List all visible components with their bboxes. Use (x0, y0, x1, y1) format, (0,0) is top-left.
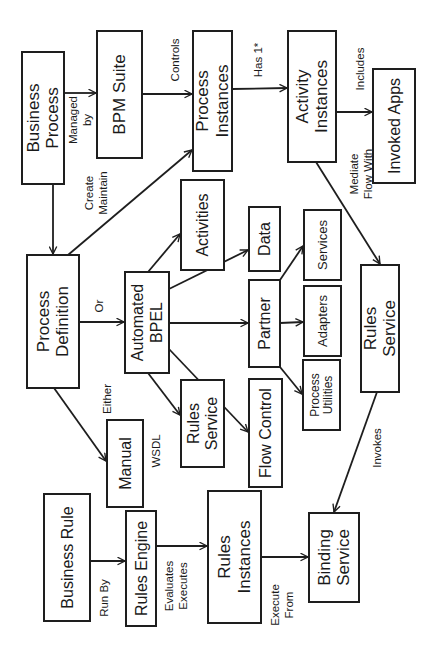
label-invokes: Invokes (371, 428, 383, 468)
node-label: BPEL (148, 302, 165, 343)
node-label: Instances (213, 65, 232, 138)
node-label: Manual (117, 437, 134, 489)
node-label: Flow Control (257, 388, 274, 478)
edge-label-text: From (283, 592, 295, 619)
edge-label-text: Or (93, 299, 105, 312)
edge-label-text: Flow With (362, 149, 374, 199)
node-label: Data (256, 222, 273, 256)
edge-label-text: Create (83, 176, 95, 211)
node-label: Services (315, 220, 330, 270)
node-label: Business (24, 84, 43, 153)
node-manual: Manual (107, 420, 143, 507)
edge-pd-to-manual (54, 388, 106, 461)
arrow-connector (148, 373, 180, 415)
arrow-connector (280, 367, 302, 394)
node-label: Activities (194, 193, 211, 256)
arrow-connector (54, 388, 106, 461)
node-data: Data (249, 207, 280, 271)
label-execute-from: ExecuteFrom (269, 584, 295, 626)
arrow-connector (148, 234, 180, 272)
node-label: Binding (315, 529, 334, 586)
edge-label-text: Managed (67, 96, 79, 144)
node-bpm-suite: BPM Suite (97, 31, 142, 158)
node-rules-engine: Rules Engine (126, 511, 156, 626)
node-adapters: Adapters (304, 286, 341, 356)
node-label: Utilities (321, 376, 335, 415)
concept-diagram: BusinessProcessBPM SuiteProcessInstances… (0, 0, 434, 650)
node-activity-instances: ActivityInstances (288, 31, 336, 162)
node-label: Instances (235, 521, 254, 594)
node-label: Process (308, 373, 322, 416)
node-label: Service (334, 529, 353, 586)
node-binding-service: BindingService (309, 513, 359, 602)
node-label: Definition (53, 286, 72, 357)
label-create-maintain: CreateMaintain (83, 171, 109, 214)
label-or: Or (93, 299, 105, 312)
edge-label-text: Controls (169, 38, 181, 81)
edge-label-text: Executes (177, 562, 189, 610)
node-label: Instances (312, 60, 331, 133)
label-mediate-flow: MediateFlow With (348, 149, 374, 199)
node-label: Partner (256, 297, 273, 350)
node-label: Rules (361, 307, 380, 350)
node-label: Activity (293, 69, 312, 123)
node-rules-service-right: RulesService (361, 265, 400, 392)
node-label: Business Rule (59, 506, 76, 608)
node-services: Services (304, 210, 341, 280)
node-label: Rules (215, 535, 234, 578)
edge-label-text: Maintain (97, 171, 109, 214)
arrow-connector (280, 322, 303, 323)
edge-bpel-to-activities (148, 234, 180, 272)
edge-label-text: Run By (98, 579, 110, 617)
node-label: Process (193, 70, 212, 131)
node-flow-control: Flow Control (249, 379, 282, 487)
node-label: Service (380, 300, 399, 357)
node-label: Rules (185, 403, 202, 444)
label-either: Either (101, 384, 113, 414)
edge-label-text: Includes (354, 47, 366, 90)
edge-label-text: by (81, 114, 93, 126)
edge-partner-to-services (280, 246, 303, 280)
arrow-connector (280, 246, 303, 280)
node-activities: Activities (181, 180, 224, 270)
node-invoked-apps: Invoked Apps (373, 69, 415, 183)
label-wsdl: WSDL (150, 434, 162, 468)
node-label: Invoked Apps (386, 78, 403, 174)
node-process-definition: ProcessDefinition (27, 255, 79, 388)
edge-label-text: Mediate (348, 154, 360, 195)
edge-pi-to-ai (232, 88, 287, 89)
node-business-process: BusinessProcess (22, 52, 64, 184)
node-partner: Partner (249, 280, 280, 367)
label-run-by: Run By (98, 579, 110, 617)
label-managed-by: Managedby (67, 96, 93, 144)
edge-bpel-to-rules (148, 373, 180, 415)
edge-partner-to-utilities (280, 367, 302, 394)
node-label: Automated (129, 284, 146, 361)
node-label: BPM Suite (110, 54, 129, 134)
node-rules-instances: RulesInstances (208, 491, 261, 623)
edge-partner-to-adapters (280, 322, 303, 323)
node-label: Process (34, 291, 53, 352)
edge-label-text: Either (101, 384, 113, 414)
arrow-connector (232, 88, 287, 89)
label-includes: Includes (354, 47, 366, 90)
label-controls: Controls (169, 38, 181, 81)
node-label: Service (203, 397, 220, 450)
edge-label-text: Execute (269, 584, 281, 626)
label-evaluates-executes: EvaluatesExecutes (163, 561, 189, 612)
node-process-utilities: ProcessUtilities (303, 360, 340, 430)
node-business-rule: Business Rule (44, 494, 90, 621)
node-label: Rules Engine (133, 521, 150, 616)
node-label: Process (43, 87, 62, 148)
node-rules-service-mid: RulesService (181, 380, 224, 467)
edge-label-text: WSDL (150, 434, 162, 468)
edge-label-text: Has 1* (252, 42, 264, 77)
edge-label-text: Evaluates (163, 561, 175, 612)
node-process-instances: ProcessInstances (193, 31, 232, 171)
label-has: Has 1* (252, 42, 264, 77)
node-automated-bpel: AutomatedBPEL (125, 272, 169, 373)
edge-label-text: Invokes (371, 428, 383, 468)
node-label: Adapters (315, 294, 330, 347)
